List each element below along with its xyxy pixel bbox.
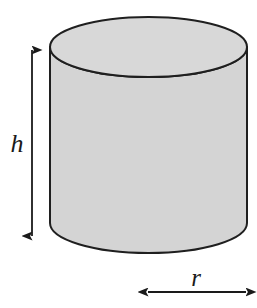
radius-label: r	[191, 264, 201, 291]
cylinder-diagram-canvas: h r	[0, 0, 257, 308]
cylinder-top-face	[50, 17, 247, 77]
height-label: h	[11, 129, 24, 158]
cylinder-figure: h r	[0, 0, 257, 308]
